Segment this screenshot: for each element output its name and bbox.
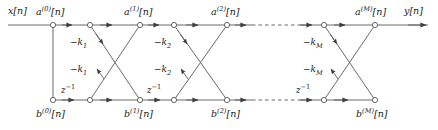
signal-label-a0: a(0)[n] bbox=[36, 6, 65, 17]
node-a0 bbox=[50, 22, 55, 27]
coefficient-label-k2-lower: −k2 bbox=[154, 65, 171, 76]
arrow-diag-down-M bbox=[330, 34, 337, 44]
delay-label-1: z−1 bbox=[61, 84, 75, 94]
arrow-diag-up-1 bbox=[97, 69, 104, 79]
node-b0 bbox=[50, 97, 55, 102]
signal-label-aM: a(M)[n] bbox=[355, 6, 386, 17]
node-a2 bbox=[224, 22, 229, 27]
arrow-diag-up-2 bbox=[181, 69, 188, 79]
arrow-diag-down-2 bbox=[180, 34, 187, 44]
signal-label-b1: b(1)[n] bbox=[124, 108, 153, 119]
coefficient-label-k1-upper: −k1 bbox=[70, 38, 87, 49]
signal-label-a1: a(1)[n] bbox=[124, 6, 153, 17]
delay-label-M: z−1 bbox=[296, 84, 310, 94]
output-signal-label: y[n] bbox=[404, 6, 423, 16]
coefficient-label-k2-upper: −k2 bbox=[154, 38, 171, 49]
arrow-diag-up-M bbox=[331, 69, 338, 79]
coefficient-label-kM-upper: −kM bbox=[303, 38, 323, 49]
node-aM bbox=[372, 22, 377, 27]
signal-label-a2: a(2)[n] bbox=[211, 6, 240, 17]
node-b2 bbox=[224, 97, 229, 102]
delay-label-2: z−1 bbox=[147, 84, 161, 94]
signal-label-b0: b(0)[n] bbox=[36, 108, 65, 119]
coefficient-label-kM-lower: −kM bbox=[303, 65, 323, 76]
node-bot-u2 bbox=[171, 97, 176, 102]
input-signal-label: x[n] bbox=[8, 6, 27, 16]
node-bM bbox=[372, 97, 377, 102]
signal-label-bM: b(M)[n] bbox=[356, 108, 388, 119]
coefficient-label-k1-lower: −k1 bbox=[70, 65, 87, 76]
node-bot-u1 bbox=[87, 97, 92, 102]
node-b1 bbox=[137, 97, 142, 102]
node-a1 bbox=[137, 22, 142, 27]
node-top-t1 bbox=[87, 22, 92, 27]
arrowhead-group bbox=[62, 25, 426, 100]
signal-label-b2: b(2)[n] bbox=[211, 108, 240, 119]
node-top-tM bbox=[321, 22, 326, 27]
lattice-filter-figure: x[n] y[n] a(0)[n] a(1)[n] a(2)[n] a(M)[n… bbox=[0, 0, 438, 130]
arrow-diag-down-1 bbox=[96, 34, 103, 44]
node-top-t2 bbox=[171, 22, 176, 27]
node-group bbox=[50, 22, 377, 102]
node-bot-uM bbox=[321, 97, 326, 102]
